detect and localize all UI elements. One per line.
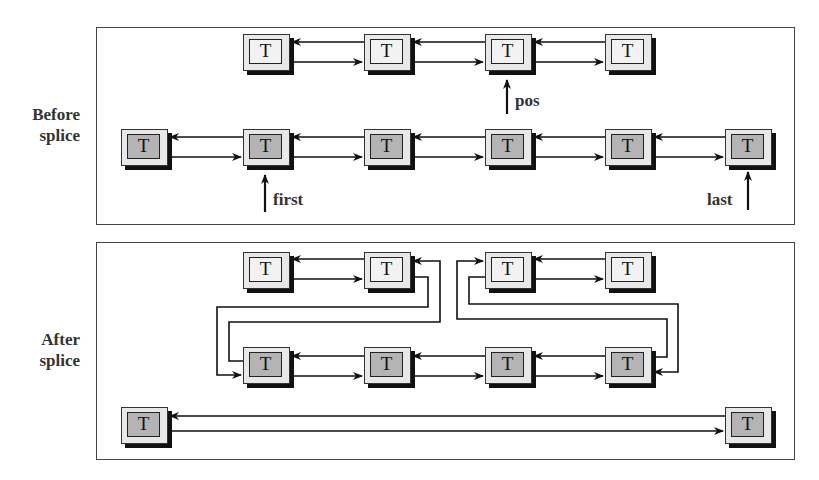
before-upper-node-pos: T: [485, 34, 532, 71]
node-label: T: [249, 39, 282, 64]
node-label: T: [370, 39, 403, 64]
node-label: T: [370, 257, 403, 282]
after-upper-node-4: T: [605, 252, 652, 289]
node-label: T: [370, 352, 403, 377]
after-middle-node-3: T: [485, 347, 532, 384]
after-middle-node-2: T: [364, 347, 411, 384]
after-bottom-node-2: T: [725, 407, 772, 444]
node-label: T: [491, 134, 524, 159]
node-label: T: [491, 352, 524, 377]
pos-pointer-label: pos: [515, 91, 540, 111]
before-lower-node-5: T: [605, 129, 652, 166]
node-label: T: [249, 352, 282, 377]
node-label: T: [491, 257, 524, 282]
after-upper-node-1: T: [243, 252, 290, 289]
after-upper-node-pos: T: [485, 252, 532, 289]
after-upper-node-2: T: [364, 252, 411, 289]
node-label: T: [731, 134, 764, 159]
node-label: T: [127, 412, 160, 437]
before-upper-node-2: T: [364, 34, 411, 71]
after-bottom-node-1: T: [121, 407, 168, 444]
node-label: T: [249, 257, 282, 282]
node-label: T: [491, 39, 524, 64]
node-label: T: [611, 39, 644, 64]
node-label: T: [731, 412, 764, 437]
last-pointer-label: last: [707, 190, 733, 210]
before-lower-node-3: T: [364, 129, 411, 166]
after-middle-node-1: T: [243, 347, 290, 384]
before-lower-node-1: T: [121, 129, 168, 166]
node-label: T: [249, 134, 282, 159]
after-middle-node-4: T: [605, 347, 652, 384]
first-pointer-label: first: [273, 190, 303, 210]
before-lower-node-last: T: [725, 129, 772, 166]
node-label: T: [611, 257, 644, 282]
before-upper-node-4: T: [605, 34, 652, 71]
before-lower-node-4: T: [485, 129, 532, 166]
node-label: T: [611, 134, 644, 159]
node-label: T: [611, 352, 644, 377]
before-lower-node-first: T: [243, 129, 290, 166]
node-label: T: [370, 134, 403, 159]
before-upper-node-1: T: [243, 34, 290, 71]
node-label: T: [127, 134, 160, 159]
